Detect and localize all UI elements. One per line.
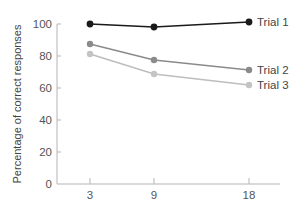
x-tick-9: 9 bbox=[151, 189, 157, 201]
data-point bbox=[87, 41, 93, 47]
y-axis-title: Percentage of correct responses bbox=[11, 24, 23, 183]
data-point bbox=[246, 82, 252, 88]
y-tick-100: 100 bbox=[33, 18, 52, 30]
data-point bbox=[151, 24, 158, 31]
data-point bbox=[151, 71, 157, 77]
series-trial-1: Trial 1 bbox=[87, 16, 289, 30]
data-point bbox=[246, 67, 252, 73]
y-tick-labels: 100 80 60 40 20 0 bbox=[33, 18, 52, 190]
legend-trial-1: Trial 1 bbox=[257, 16, 289, 28]
x-tick-3: 3 bbox=[87, 189, 93, 201]
legend-trial-2: Trial 2 bbox=[257, 64, 289, 76]
legend-trial-3: Trial 3 bbox=[257, 79, 289, 91]
y-tick-20: 20 bbox=[39, 146, 52, 158]
line-chart: Percentage of correct responses 100 80 6… bbox=[0, 0, 300, 209]
y-tick-40: 40 bbox=[39, 114, 52, 126]
y-tick-80: 80 bbox=[39, 50, 52, 62]
x-tick-labels: 3 9 18 bbox=[87, 189, 256, 201]
data-point bbox=[87, 51, 93, 57]
y-tick-0: 0 bbox=[46, 178, 52, 190]
y-ticks bbox=[57, 24, 61, 152]
x-ticks bbox=[90, 178, 249, 184]
data-point bbox=[246, 19, 253, 26]
series-trial-2: Trial 2 bbox=[87, 41, 289, 76]
data-point bbox=[151, 57, 157, 63]
x-tick-18: 18 bbox=[243, 189, 256, 201]
y-tick-60: 60 bbox=[39, 82, 52, 94]
data-point bbox=[87, 21, 94, 28]
